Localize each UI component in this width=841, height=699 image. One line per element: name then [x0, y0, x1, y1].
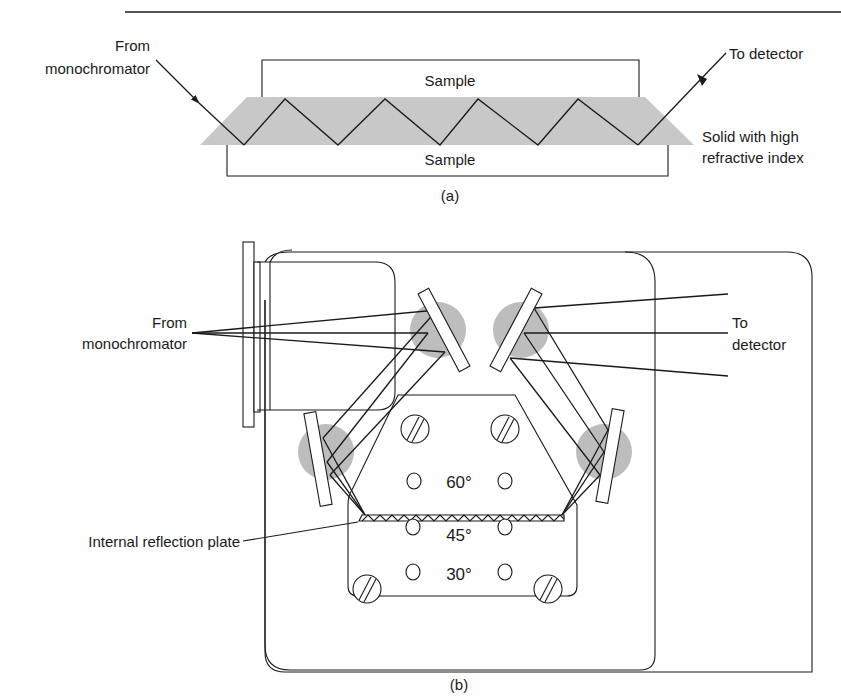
screw-bottom-left [353, 575, 381, 603]
angle-30-label: 30° [446, 565, 472, 584]
from-monochromator-label-b1: From [152, 314, 187, 331]
screw-top-right [491, 415, 519, 443]
left-mount-plate [243, 242, 254, 427]
high-index-crystal [200, 97, 694, 145]
to-detector-label-a: To detector [729, 45, 803, 62]
panel-a: From monochromator To detector Sample Sa… [45, 37, 804, 204]
crystal-label-1: Solid with high [702, 128, 799, 145]
sample-bottom-label: Sample [425, 151, 476, 168]
atr-figure: From monochromator To detector Sample Sa… [0, 0, 841, 699]
internal-reflection-plate [359, 515, 564, 521]
source-housing [257, 262, 395, 410]
screw-bottom-right [534, 575, 562, 603]
plate-leader-line [243, 522, 358, 541]
crystal-label-2: refractive index [702, 149, 804, 166]
panel-a-caption: (a) [441, 187, 459, 204]
incoming-beam-arrow [156, 60, 199, 103]
to-detector-label-b2: detector [732, 336, 786, 353]
from-monochromator-label-a1: From [115, 37, 150, 54]
angle-45-label: 45° [446, 526, 472, 545]
panel-b-caption: (b) [450, 676, 468, 693]
to-detector-label-b1: To [732, 314, 748, 331]
plate-label: Internal reflection plate [88, 533, 240, 550]
from-monochromator-label-a2: monochromator [45, 60, 150, 77]
angle-60-label: 60° [446, 473, 472, 492]
panel-b: 60° 45° 30° From monochromator To detect… [82, 242, 812, 693]
screw-top-left [401, 415, 429, 443]
from-monochromator-label-b2: monochromator [82, 335, 187, 352]
sample-top-label: Sample [425, 72, 476, 89]
outgoing-beam-arrow [700, 53, 726, 80]
